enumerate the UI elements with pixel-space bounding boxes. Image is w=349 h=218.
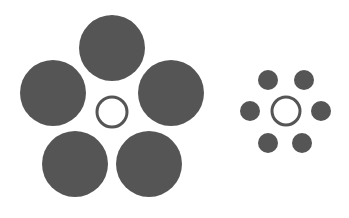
right-surround-circle (258, 133, 278, 153)
right-surround-circle (258, 70, 278, 90)
right-surround-circle (240, 101, 260, 121)
left-surround-circle (116, 131, 182, 197)
left-group-large-surround (20, 15, 204, 197)
right-surround-circle (292, 133, 312, 153)
ebbinghaus-illusion-figure (0, 0, 349, 218)
left-surround-circle (42, 131, 108, 197)
left-surround-circle (20, 60, 86, 126)
right-center-ring (272, 97, 300, 125)
left-surround-circle (138, 60, 204, 126)
left-surround-circle (79, 15, 145, 81)
right-group-small-surround (240, 70, 331, 153)
right-surround-circle (311, 101, 331, 121)
right-surround-circle (294, 70, 314, 90)
left-center-ring (97, 97, 127, 127)
